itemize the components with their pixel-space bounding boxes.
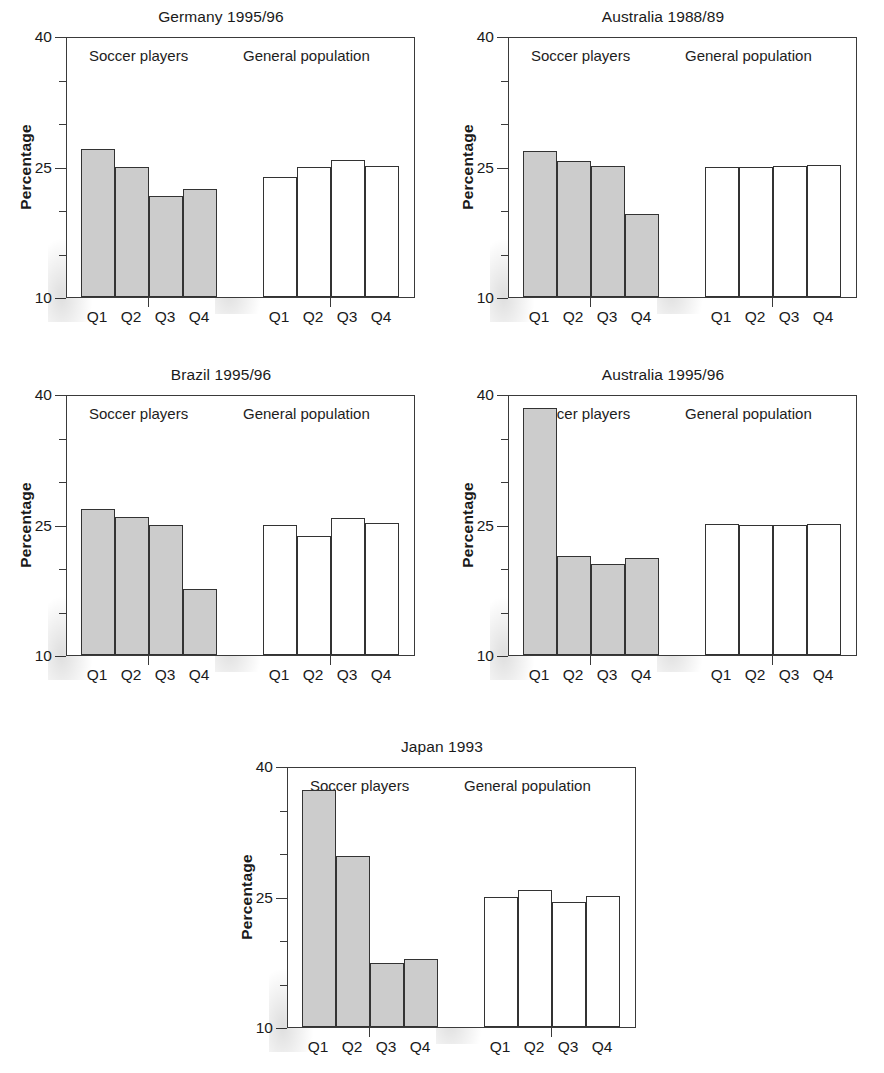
y-tick-major — [497, 656, 508, 657]
x-tick-label: Q2 — [121, 666, 142, 684]
x-tick-label: Q4 — [631, 308, 652, 326]
bars-layer — [509, 396, 856, 655]
figure-birth-quarter-distribution: Germany 1995/96102540PercentageSoccer pl… — [0, 0, 884, 1073]
y-tick-label: 25 — [477, 160, 494, 176]
bar-general-q1 — [263, 177, 297, 297]
x-tick-label: Q2 — [745, 308, 766, 326]
chart-panel: Japan 1993102540PercentageSoccer players… — [221, 730, 663, 1073]
x-tick — [772, 298, 773, 307]
y-tick-major — [55, 526, 66, 527]
y-tick-major — [276, 898, 287, 899]
y-tick-label: 40 — [256, 759, 273, 775]
y-tick-minor — [280, 985, 287, 986]
y-tick-label: 40 — [477, 29, 494, 45]
bar-general-q4 — [807, 524, 841, 655]
panel-title: Brazil 1995/96 — [0, 366, 442, 384]
bar-general-q4 — [365, 166, 399, 297]
bar-soccer-q3 — [591, 564, 625, 655]
y-tick-label: 25 — [35, 160, 52, 176]
y-tick-major — [55, 37, 66, 38]
y-tick-major — [497, 37, 508, 38]
y-tick-minor — [501, 255, 508, 256]
x-tick-label: Q4 — [371, 308, 392, 326]
bar-soccer-q4 — [183, 189, 217, 297]
x-tick-label: Q4 — [189, 666, 210, 684]
x-tick-label: Q3 — [155, 666, 176, 684]
bar-general-q1 — [263, 525, 297, 656]
plot-area: Soccer playersGeneral population — [287, 767, 636, 1028]
plot-area: Soccer playersGeneral population — [508, 37, 857, 298]
bar-general-q3 — [331, 160, 365, 297]
bar-general-q1 — [705, 524, 739, 655]
y-tick-label: 10 — [35, 290, 52, 306]
y-tick-minor — [280, 941, 287, 942]
bar-soccer-q4 — [404, 959, 438, 1027]
plot-area: Soccer playersGeneral population — [66, 37, 415, 298]
y-tick-minor — [501, 124, 508, 125]
panel-title: Japan 1993 — [221, 738, 663, 756]
y-axis-title: Percentage — [238, 845, 256, 949]
x-tick — [590, 298, 591, 307]
y-tick-label: 40 — [35, 387, 52, 403]
bar-soccer-q3 — [591, 166, 625, 297]
x-tick-label: Q2 — [303, 666, 324, 684]
bar-general-q3 — [773, 166, 807, 297]
y-axis-title: Percentage — [17, 473, 35, 577]
x-tick-label: Q1 — [87, 666, 108, 684]
bar-general-q3 — [552, 902, 586, 1027]
y-tick-major — [276, 767, 287, 768]
chart-panel: Brazil 1995/96102540PercentageSoccer pla… — [0, 358, 442, 698]
y-tick-minor — [501, 81, 508, 82]
y-tick-minor — [59, 124, 66, 125]
x-tick-label: Q4 — [631, 666, 652, 684]
chart-panel: Australia 1988/89102540PercentageSoccer … — [442, 0, 884, 340]
x-tick-label: Q3 — [337, 666, 358, 684]
plot-area: Soccer playersGeneral population — [66, 395, 415, 656]
x-tick — [590, 656, 591, 665]
chart-panel: Australia 1995/96102540PercentageSoccer … — [442, 358, 884, 698]
y-tick-major — [497, 168, 508, 169]
bar-general-q2 — [518, 890, 552, 1027]
y-tick-label: 10 — [35, 648, 52, 664]
x-tick-label: Q4 — [189, 308, 210, 326]
x-axis: Q1Q2Q3Q4Q1Q2Q3Q4 — [66, 298, 415, 330]
y-tick-label: 25 — [477, 518, 494, 534]
bar-soccer-q1 — [302, 790, 336, 1027]
bar-soccer-q4 — [625, 214, 659, 297]
bar-soccer-q2 — [336, 856, 370, 1027]
x-tick-label: Q1 — [529, 308, 550, 326]
y-tick-minor — [501, 613, 508, 614]
y-tick-label: 25 — [256, 890, 273, 906]
bar-general-q4 — [586, 896, 620, 1027]
x-tick-label: Q3 — [376, 1038, 397, 1056]
bar-soccer-q1 — [523, 408, 557, 655]
bars-layer — [67, 38, 414, 297]
bar-soccer-q2 — [115, 517, 149, 655]
bar-general-q3 — [773, 525, 807, 656]
panel-title: Germany 1995/96 — [0, 8, 442, 26]
x-tick-label: Q1 — [711, 308, 732, 326]
bar-general-q4 — [365, 523, 399, 655]
x-tick-label: Q3 — [155, 308, 176, 326]
y-tick-major — [276, 1028, 287, 1029]
x-tick-label: Q4 — [813, 666, 834, 684]
y-tick-major — [55, 656, 66, 657]
x-axis: Q1Q2Q3Q4Q1Q2Q3Q4 — [66, 656, 415, 688]
x-tick — [551, 1028, 552, 1037]
y-tick-minor — [59, 255, 66, 256]
x-tick-label: Q3 — [779, 308, 800, 326]
x-tick-label: Q2 — [303, 308, 324, 326]
panel-title: Australia 1995/96 — [442, 366, 884, 384]
bar-soccer-q2 — [557, 556, 591, 655]
y-axis-title: Percentage — [459, 115, 477, 219]
y-tick-major — [55, 298, 66, 299]
x-axis: Q1Q2Q3Q4Q1Q2Q3Q4 — [287, 1028, 636, 1060]
y-tick-minor — [59, 613, 66, 614]
y-tick-label: 10 — [256, 1020, 273, 1036]
x-tick-label: Q1 — [269, 308, 290, 326]
y-tick-minor — [59, 569, 66, 570]
bars-layer — [288, 768, 635, 1027]
x-tick — [148, 298, 149, 307]
y-tick-major — [55, 168, 66, 169]
bar-soccer-q2 — [557, 161, 591, 297]
